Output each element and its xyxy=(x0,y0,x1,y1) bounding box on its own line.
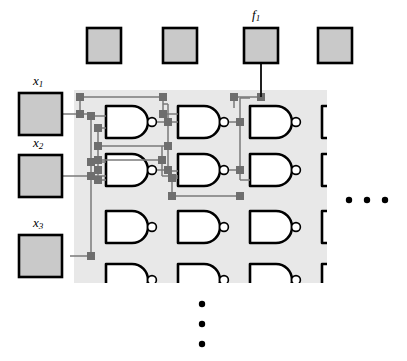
output-pad-3-f1[interactable] xyxy=(244,28,278,63)
input-pad-x2[interactable] xyxy=(19,155,62,197)
connection-node[interactable] xyxy=(87,158,95,166)
ellipsis-dot xyxy=(382,197,388,203)
label-f1: f1 xyxy=(252,8,260,23)
connection-node[interactable] xyxy=(164,166,172,174)
nand-gate-r1c4[interactable] xyxy=(322,106,372,138)
label-x2-sub: 2 xyxy=(39,141,44,151)
horizontal-ellipsis xyxy=(346,197,388,203)
vertical-ellipsis xyxy=(199,301,205,347)
connection-node[interactable] xyxy=(94,176,102,184)
label-x3: x3 xyxy=(33,216,43,231)
label-x1-sub: 1 xyxy=(39,79,44,89)
connection-node[interactable] xyxy=(87,112,95,120)
input-pad-x3[interactable] xyxy=(19,235,62,277)
nand-gate-r2c4[interactable] xyxy=(322,154,372,186)
output-pad-row xyxy=(87,28,352,63)
connection-node[interactable] xyxy=(168,192,176,200)
ellipsis-dot xyxy=(199,301,205,307)
ellipsis-dot xyxy=(199,321,205,327)
label-x2: x2 xyxy=(33,136,43,151)
output-pad-1[interactable] xyxy=(87,28,121,63)
nand-gate-r3c4[interactable] xyxy=(322,211,372,243)
label-x3-sub: 3 xyxy=(39,221,44,231)
connection-node[interactable] xyxy=(94,156,102,164)
connection-node[interactable] xyxy=(168,174,176,182)
connection-node[interactable] xyxy=(94,142,102,150)
connection-node[interactable] xyxy=(159,110,167,118)
connection-node[interactable] xyxy=(158,156,166,164)
connection-node[interactable] xyxy=(94,124,102,132)
nand-gate-r4c4[interactable] xyxy=(322,264,372,296)
ellipsis-dot xyxy=(199,341,205,347)
input-pad-x1[interactable] xyxy=(19,93,62,135)
input-pad-column xyxy=(19,93,62,277)
connection-node[interactable] xyxy=(94,166,102,174)
connection-node[interactable] xyxy=(87,252,95,260)
connection-node[interactable] xyxy=(164,142,172,150)
ellipsis-dot xyxy=(346,197,352,203)
connection-node[interactable] xyxy=(230,93,238,101)
connection-node[interactable] xyxy=(236,192,244,200)
figure-gate-array-diagram: f1 x1 x2 x3 xyxy=(0,0,407,361)
connection-node[interactable] xyxy=(76,110,84,118)
connection-node[interactable] xyxy=(236,166,244,174)
output-pad-4[interactable] xyxy=(318,28,352,63)
connection-node[interactable] xyxy=(87,172,95,180)
diagram-canvas xyxy=(0,0,407,361)
connection-node[interactable] xyxy=(164,118,172,126)
label-x1: x1 xyxy=(33,74,43,89)
connection-node[interactable] xyxy=(159,93,167,101)
connection-node[interactable] xyxy=(236,118,244,126)
connection-node[interactable] xyxy=(76,93,84,101)
ellipsis-dot xyxy=(364,197,370,203)
output-pad-2[interactable] xyxy=(163,28,197,63)
label-f1-sub: 1 xyxy=(256,13,261,23)
